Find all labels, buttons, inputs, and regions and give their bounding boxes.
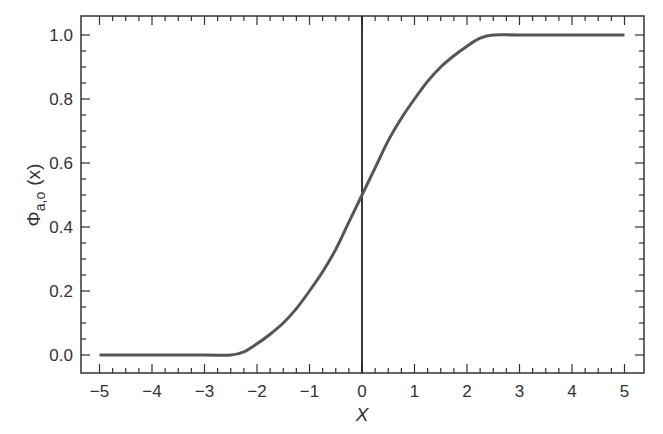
- x-tick-label: −1: [300, 382, 319, 401]
- y-tick-label: 0.2: [49, 282, 73, 301]
- x-axis-title: X: [355, 404, 370, 425]
- y-axis-title: Φa,o(x): [23, 164, 48, 227]
- x-tick-label: 2: [462, 382, 471, 401]
- y-tick-label: 0.4: [49, 218, 73, 237]
- x-tick-label: −3: [195, 382, 214, 401]
- plot-area: −5−4−3−2−10123450.00.20.40.60.81.0XΦa,o(…: [23, 16, 644, 425]
- chart: −5−4−3−2−10123450.00.20.40.60.81.0XΦa,o(…: [0, 0, 663, 434]
- x-tick-label: 4: [567, 382, 576, 401]
- x-tick-label: −4: [142, 382, 161, 401]
- y-tick-label: 0.0: [49, 346, 73, 365]
- y-tick-label: 0.6: [49, 154, 73, 173]
- x-tick-label: 5: [620, 382, 629, 401]
- x-tick-label: 3: [515, 382, 524, 401]
- x-tick-label: 0: [357, 382, 366, 401]
- x-tick-label: −2: [247, 382, 266, 401]
- x-tick-label: −5: [90, 382, 109, 401]
- x-tick-label: 1: [410, 382, 419, 401]
- y-tick-label: 0.8: [49, 90, 73, 109]
- y-tick-label: 1.0: [49, 26, 73, 45]
